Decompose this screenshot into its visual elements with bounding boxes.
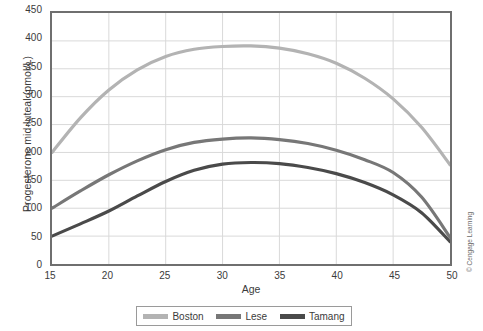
y-axis-tick: 250 xyxy=(8,117,42,128)
x-axis-title: Age xyxy=(50,283,452,295)
x-axis-tick: 30 xyxy=(207,270,237,281)
x-axis-tick: 25 xyxy=(150,270,180,281)
legend-item: Lese xyxy=(216,311,267,322)
legend-label: Tamang xyxy=(309,311,345,322)
plot-area xyxy=(50,11,452,266)
legend-label: Lese xyxy=(245,311,267,322)
y-axis-tick: 200 xyxy=(8,146,42,157)
y-axis-tick: 450 xyxy=(8,4,42,15)
y-axis-tick: 0 xyxy=(8,259,42,270)
x-axis-tick: 35 xyxy=(265,270,295,281)
legend-swatch xyxy=(216,314,241,319)
series-line xyxy=(52,138,450,237)
data-curves xyxy=(52,13,450,264)
x-axis-tick: 45 xyxy=(380,270,410,281)
legend-swatch xyxy=(280,314,305,319)
copyright-credit: © Cengage Learning xyxy=(466,192,473,272)
y-axis-tick: 50 xyxy=(8,231,42,242)
chart-legend: BostonLeseTamang xyxy=(136,306,352,326)
x-axis-tick: 40 xyxy=(322,270,352,281)
x-axis-tick: 50 xyxy=(437,270,467,281)
y-axis-tick: 300 xyxy=(8,89,42,100)
y-axis-tick: 350 xyxy=(8,61,42,72)
legend-swatch xyxy=(143,314,168,319)
y-axis-tick: 150 xyxy=(8,174,42,185)
chart-figure: Progesterone mid-luteal (pmol/L) 0501001… xyxy=(0,0,483,331)
legend-item: Tamang xyxy=(280,311,345,322)
x-axis-tick: 15 xyxy=(35,270,65,281)
x-axis-tick: 20 xyxy=(92,270,122,281)
legend-item: Boston xyxy=(143,311,203,322)
y-axis-title: Progesterone mid-luteal (pmol/L) xyxy=(21,14,33,254)
legend-label: Boston xyxy=(172,311,203,322)
y-axis-tick: 400 xyxy=(8,32,42,43)
y-axis-tick: 100 xyxy=(8,202,42,213)
series-line xyxy=(52,46,450,165)
